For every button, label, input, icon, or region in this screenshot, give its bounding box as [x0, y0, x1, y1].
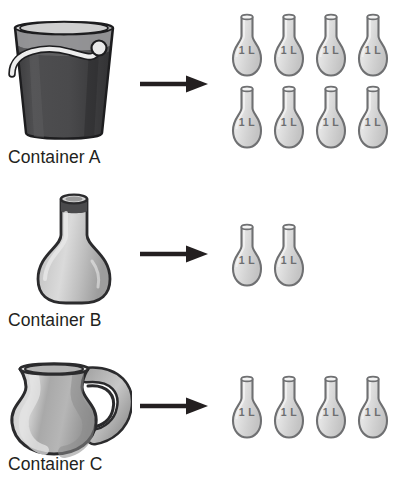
- flask-1l: 1 L: [268, 8, 310, 80]
- flask-1l: 1 L: [226, 80, 268, 152]
- flask-1l: 1 L: [352, 370, 394, 442]
- flask-1l: 1 L: [310, 80, 352, 152]
- flask-1l: 1 L: [310, 8, 352, 80]
- caption-container-b: Container B: [8, 310, 102, 330]
- caption-container-a: Container A: [8, 147, 101, 167]
- flask-1l: 1 L: [226, 370, 268, 442]
- source-container-c: Container C: [0, 341, 132, 480]
- flask-grid-b: 1 L 1 L: [226, 218, 316, 290]
- flask-1l: 1 L: [268, 80, 310, 152]
- container-row-b: Container B 1 L 1 L: [0, 178, 396, 341]
- flask-1l: 1 L: [268, 370, 310, 442]
- flask-1l: 1 L: [226, 8, 268, 80]
- container-row-c: Container C 1 L 1 L: [0, 341, 396, 480]
- illustration-canvas: Container A 1 L: [0, 0, 396, 480]
- arrow-right-icon: [138, 73, 210, 95]
- caption-container-c: Container C: [8, 454, 102, 474]
- arrow-right-icon: [138, 395, 210, 417]
- flask-1l: 1 L: [310, 370, 352, 442]
- flask-grid-a: 1 L 1 L 1 L: [226, 8, 396, 152]
- flask-1l: 1 L: [352, 80, 394, 152]
- bucket-icon: [4, 6, 124, 151]
- jug-icon: [4, 355, 132, 460]
- source-container-a: Container A: [0, 0, 132, 178]
- source-container-b: Container B: [0, 178, 132, 341]
- flask-1l: 1 L: [268, 218, 310, 290]
- flask-1l: 1 L: [226, 218, 268, 290]
- container-row-a: Container A 1 L: [0, 0, 396, 178]
- flask-1l: 1 L: [352, 8, 394, 80]
- flask-grid-c: 1 L 1 L 1 L: [226, 370, 396, 442]
- arrow-right-icon: [138, 243, 210, 265]
- bottle-icon: [26, 191, 126, 311]
